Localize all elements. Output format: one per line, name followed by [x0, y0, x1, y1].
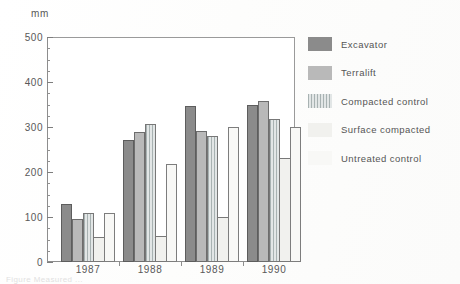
legend-item-label: Excavator	[341, 39, 387, 50]
legend-swatch-icon	[308, 151, 332, 165]
y-tick-label-200: 200	[7, 167, 43, 178]
bar-1988-surface-compacted	[155, 236, 166, 262]
bar-1990-surface-compacted	[279, 158, 290, 262]
y-axis: 0100200300400500	[0, 30, 47, 270]
y-tick-label-400: 400	[7, 77, 43, 88]
bar-1987-untreated-control	[104, 213, 115, 262]
legend-item-terralift[interactable]: Terralift	[308, 65, 458, 81]
figure-caption: Figure Measured ...	[6, 275, 83, 284]
bar-1989-untreated-control	[228, 127, 239, 262]
y-tick-label-500: 500	[7, 32, 43, 43]
y-tick-minor	[47, 150, 50, 151]
bar-1990-terralift	[258, 101, 269, 262]
legend-item-excavator[interactable]: Excavator	[308, 36, 458, 52]
y-tick-minor	[47, 105, 50, 106]
legend-item-label: Untreated control	[341, 153, 422, 164]
bar-group-1989	[185, 37, 239, 262]
x-tick-label-1990: 1990	[262, 264, 287, 275]
x-tick-label-1987: 1987	[76, 264, 101, 275]
y-tick-minor	[47, 195, 50, 196]
x-group-separator-tick	[243, 262, 244, 266]
bar-1989-compacted-control	[207, 136, 218, 262]
bar-1987-compacted-control	[83, 213, 94, 262]
y-tick-minor	[47, 48, 50, 49]
bar-1990-untreated-control	[290, 127, 301, 262]
bar-1987-excavator	[61, 204, 72, 263]
legend-item-label: Compacted control	[341, 96, 428, 107]
y-tick-minor	[47, 138, 50, 139]
bar-1988-compacted-control	[145, 124, 156, 262]
bar-1989-terralift	[196, 131, 207, 262]
y-tick-minor	[47, 161, 50, 162]
y-tick-minor	[47, 93, 50, 94]
legend-item-surface-compacted[interactable]: Surface compacted	[308, 122, 458, 138]
bar-1988-untreated-control	[166, 164, 177, 262]
legend-swatch-icon	[308, 94, 332, 108]
legend-swatch-icon	[308, 66, 332, 80]
bar-group-1987	[61, 37, 115, 262]
bar-1988-excavator	[123, 140, 134, 262]
y-tick-label-100: 100	[7, 212, 43, 223]
x-tick-label-1988: 1988	[138, 264, 163, 275]
bar-1987-terralift	[72, 219, 83, 262]
y-tick-major	[47, 127, 53, 128]
y-tick-label-0: 0	[7, 257, 43, 268]
y-tick-minor	[47, 116, 50, 117]
y-tick-major	[47, 172, 53, 173]
bar-1987-surface-compacted	[93, 237, 104, 262]
bar-1990-excavator	[247, 105, 258, 263]
bar-1988-terralift	[134, 132, 145, 263]
y-tick-major	[47, 82, 53, 83]
y-tick-major	[47, 262, 53, 263]
y-axis-unit-label: mm	[31, 8, 49, 19]
x-group-separator-tick	[119, 262, 120, 266]
legend-item-untreated-control[interactable]: Untreated control	[308, 150, 458, 166]
bar-1989-excavator	[185, 106, 196, 262]
x-group-separator-tick	[181, 262, 182, 266]
y-tick-major	[47, 37, 53, 38]
x-tick-label-1989: 1989	[200, 264, 225, 275]
y-tick-minor	[47, 251, 50, 252]
y-tick-minor	[47, 71, 50, 72]
bar-1990-compacted-control	[269, 119, 280, 262]
legend-swatch-icon	[308, 123, 332, 137]
bar-chart-figure: mm 0100200300400500 1987198819891990 Exc…	[0, 0, 460, 284]
bar-group-1988	[123, 37, 177, 262]
legend-swatch-icon	[308, 37, 332, 51]
y-tick-label-300: 300	[7, 122, 43, 133]
y-tick-minor	[47, 60, 50, 61]
bar-group-1990	[247, 37, 301, 262]
legend-item-compacted-control[interactable]: Compacted control	[308, 93, 458, 109]
y-tick-minor	[47, 183, 50, 184]
y-tick-minor	[47, 228, 50, 229]
chart-legend: ExcavatorTerraliftCompacted controlSurfa…	[308, 36, 458, 179]
legend-item-label: Surface compacted	[341, 124, 431, 135]
legend-item-label: Terralift	[341, 67, 376, 78]
y-tick-major	[47, 217, 53, 218]
bar-1989-surface-compacted	[217, 217, 228, 262]
y-tick-minor	[47, 240, 50, 241]
y-tick-minor	[47, 206, 50, 207]
